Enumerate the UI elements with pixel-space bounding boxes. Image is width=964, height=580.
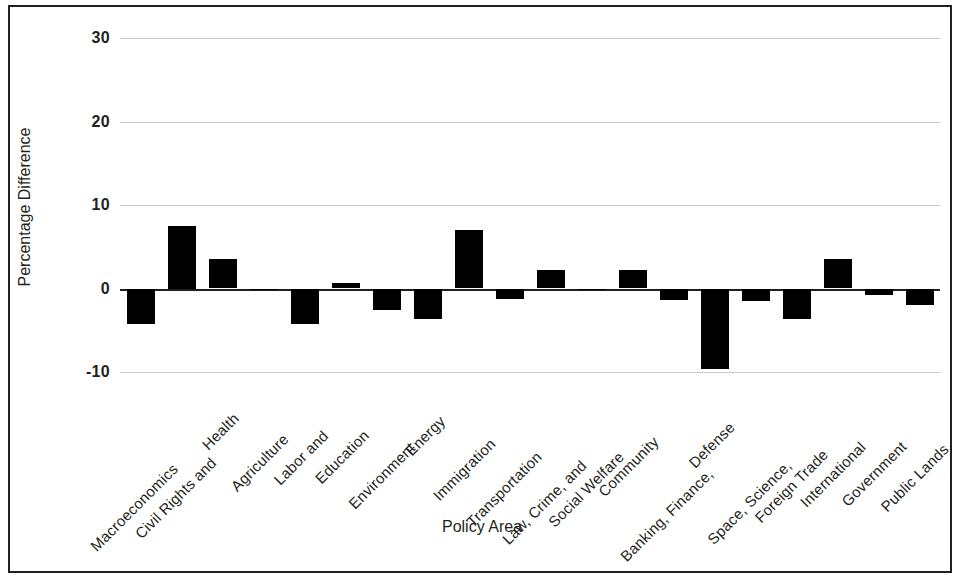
- x-axis-tick-labels: MacroeconomicsCivil Rights andHealthAgri…: [120, 372, 940, 512]
- bar: [865, 289, 893, 296]
- bar-slot: [489, 38, 530, 372]
- bar: [742, 289, 770, 302]
- bar-slot: [653, 38, 694, 372]
- bar-slot: [735, 38, 776, 372]
- bar-slot: [120, 38, 161, 372]
- bar: [906, 289, 934, 306]
- bar-slot: [202, 38, 243, 372]
- bar: [373, 289, 401, 311]
- x-axis-title: Policy Area: [0, 518, 964, 536]
- y-axis-tick-label: -10: [86, 363, 110, 381]
- bar-slot: [776, 38, 817, 372]
- bar-slot: [161, 38, 202, 372]
- y-axis-tick-label: 30: [92, 29, 110, 47]
- bar: [619, 270, 647, 288]
- bar-slot: [817, 38, 858, 372]
- bar: [660, 289, 688, 301]
- bar: [496, 289, 524, 299]
- bar: [127, 289, 155, 324]
- bar: [250, 289, 278, 291]
- bar-slot: [448, 38, 489, 372]
- bar-slot: [284, 38, 325, 372]
- bar: [332, 283, 360, 288]
- bar-slot: [612, 38, 653, 372]
- plot-area: 3020100-10: [120, 38, 940, 372]
- bar-slot: [858, 38, 899, 372]
- bar-slot: [694, 38, 735, 372]
- bar: [701, 289, 729, 370]
- bar-slot: [530, 38, 571, 372]
- bar: [414, 289, 442, 319]
- bar-slot: [899, 38, 940, 372]
- x-axis-tick-label: Defense: [685, 419, 738, 472]
- y-axis-title: Percentage Difference: [16, 92, 34, 322]
- bar: [783, 289, 811, 319]
- bar-slot: [366, 38, 407, 372]
- x-axis-tick-label: Energy: [401, 412, 447, 458]
- bar: [209, 259, 237, 288]
- bar: [291, 289, 319, 324]
- bar: [537, 270, 565, 288]
- y-axis-tick-label: 0: [101, 280, 110, 298]
- bar-slot: [325, 38, 366, 372]
- bar: [168, 226, 196, 289]
- y-axis-tick-label: 10: [92, 196, 110, 214]
- y-axis-tick-label: 20: [92, 113, 110, 131]
- bar-series: [120, 38, 940, 372]
- bar: [824, 259, 852, 288]
- chart-figure: Percentage Difference 3020100-10 Macroec…: [0, 0, 964, 580]
- bar-slot: [571, 38, 612, 372]
- bar-slot: [407, 38, 448, 372]
- bar: [578, 289, 606, 291]
- bar: [455, 230, 483, 288]
- x-axis-tick-label: Health: [198, 410, 242, 454]
- bar-slot: [243, 38, 284, 372]
